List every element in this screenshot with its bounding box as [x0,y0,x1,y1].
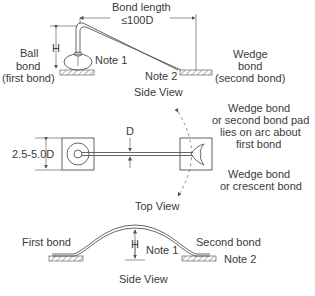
bond-length-value: ≤100D [121,14,153,26]
note2-label-bottom: Note 2 [224,253,256,265]
second-bond-pad-top [180,138,212,170]
second-bond-pad [180,70,212,75]
arc-note-1: Wedge bond [228,102,290,114]
wedge-note-1: Wedge bond [228,168,290,180]
height-label: H [52,42,60,54]
note1-label-bottom: Note 1 [146,244,178,256]
top-view-caption: Top View [135,200,179,212]
wedge-bond-label-3: (second bond) [215,72,285,84]
arc-note-2: or second bond pad [212,114,309,126]
second-bond-pad-bottom [182,256,216,261]
wedge-bond-label-2: bond [238,60,262,72]
side-view-caption-1: Side View [134,86,183,98]
wire-dia-label: D [126,125,134,137]
arc-note-4: first bond [236,138,281,150]
wedge-note-2: or crescent bond [220,180,302,192]
note1-label: Note 1 [95,54,127,66]
first-bond-pad [60,70,94,75]
ball-bond-label-3: (first bond) [2,72,55,84]
ball-bond-label-1: Ball [20,47,38,59]
wedge-crescent-shape [191,144,204,165]
side-view-bottom: H Note 1 First bond Second bond Note 2 S… [22,225,261,285]
pad-size-label: 2.5-5.0D [12,148,54,160]
top-view: 2.5-5.0D D Wedge bond or second bond pad… [12,102,309,212]
ball-bond-label-2: bond [16,60,40,72]
side-view-caption-2: Side View [119,273,168,285]
note2-label: Note 2 [145,70,177,82]
bond-length-label: Bond length [112,1,171,13]
wedge-bond-label-1: Wedge [233,48,268,60]
arc-note-3: lies on arc about [220,126,301,138]
height-label-bottom: H [131,238,139,250]
first-bond-label: First bond [22,236,71,248]
diagram-svg: H Bond length ≤100D Note 1 Note 2 Ball b… [0,0,315,296]
first-bond-pad-bottom [49,256,83,261]
wire-bond-diagram: H Bond length ≤100D Note 1 Note 2 Ball b… [0,0,315,296]
second-bond-label: Second bond [196,236,261,248]
side-view-top: H Bond length ≤100D Note 1 Note 2 Ball b… [2,1,285,98]
